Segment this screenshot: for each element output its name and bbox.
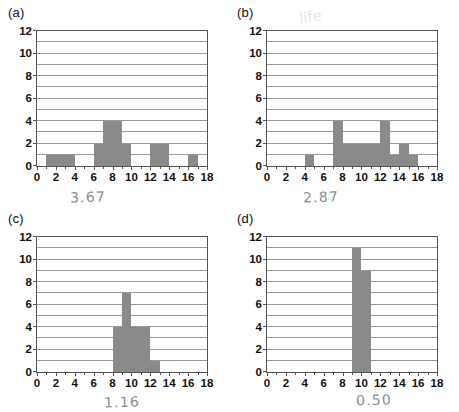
x-axis-tick-mark (103, 166, 104, 169)
x-axis-tick-label: 14 (393, 172, 406, 184)
x-axis-tick-mark (428, 166, 429, 169)
y-axis-tick-label: 4 (26, 115, 32, 127)
panel-a-label: (a) (8, 5, 25, 20)
x-axis-tick-mark (409, 372, 410, 375)
y-axis-tick-label: 10 (19, 48, 32, 60)
x-axis-tick-label: 14 (393, 378, 406, 390)
x-axis-tick-mark (113, 166, 114, 170)
x-axis-tick-label: 4 (302, 378, 308, 390)
x-axis-tick-mark (295, 166, 296, 169)
x-axis-tick-label: 0 (34, 172, 40, 184)
y-axis-tick-label: 12 (249, 25, 262, 37)
gridline (37, 41, 207, 42)
x-axis-tick-label: 4 (72, 172, 78, 184)
x-axis-tick-mark (418, 166, 419, 170)
panel-b-annotation: 2.87 (303, 188, 340, 205)
x-axis-tick-label: 10 (355, 378, 368, 390)
x-axis-tick-label: 14 (163, 172, 176, 184)
x-axis-tick-label: 18 (201, 172, 214, 184)
y-axis-tick-label: 10 (249, 254, 262, 266)
y-axis-tick-mark (33, 326, 37, 327)
gridline (267, 53, 437, 54)
x-axis-tick-mark (314, 372, 315, 375)
y-axis-tick-mark (263, 281, 267, 282)
x-axis-tick-label: 16 (182, 378, 195, 390)
panel-d-annotation: 0.50 (356, 391, 393, 408)
gridline (37, 270, 207, 271)
x-axis-tick-label: 4 (302, 172, 308, 184)
y-axis-tick-label: 8 (256, 276, 262, 288)
y-axis-tick-label: 0 (256, 160, 262, 172)
x-axis-tick-mark (122, 372, 123, 375)
x-axis-tick-mark (141, 372, 142, 375)
x-axis-tick-mark (84, 372, 85, 375)
histogram-bar (94, 144, 103, 167)
gridline (267, 41, 437, 42)
gridline (267, 86, 437, 87)
panel-d-plot-inner (267, 237, 437, 372)
y-axis-tick-mark (33, 236, 37, 237)
y-axis-tick-mark (263, 98, 267, 99)
histogram-bar (333, 121, 342, 166)
y-axis-tick-mark (263, 326, 267, 327)
y-axis-tick-label: 2 (256, 138, 262, 150)
panel-c-plot-area: 024681012024681012141618 (36, 236, 208, 373)
gridline (267, 75, 437, 76)
x-axis-tick-mark (150, 166, 151, 170)
gridline (267, 64, 437, 65)
x-axis-tick-mark (371, 166, 372, 169)
gridline (37, 75, 207, 76)
panel-a-plot-area: 024681012024681012141618 (36, 30, 208, 167)
x-axis-tick-label: 16 (412, 172, 425, 184)
x-axis-tick-mark (409, 166, 410, 169)
y-axis-tick-mark (263, 120, 267, 121)
x-axis-tick-mark (131, 166, 132, 170)
x-axis-tick-mark (169, 372, 170, 376)
x-axis-tick-mark (286, 372, 287, 376)
x-axis-tick-mark (343, 166, 344, 170)
x-axis-tick-label: 2 (283, 378, 289, 390)
histogram-bar (122, 144, 131, 167)
x-axis-tick-mark (207, 166, 208, 170)
x-axis-tick-label: 2 (53, 378, 59, 390)
x-axis-tick-label: 8 (339, 172, 345, 184)
gridline (267, 98, 437, 99)
x-axis-tick-label: 18 (201, 378, 214, 390)
x-axis-tick-mark (380, 166, 381, 170)
x-axis-tick-mark (437, 166, 438, 170)
x-axis-tick-mark (150, 372, 151, 376)
panel-a: (a) 024681012024681012141618 3.67 (0, 0, 229, 206)
histogram-bar (305, 155, 314, 166)
x-axis-tick-label: 12 (374, 172, 387, 184)
histogram-bar (122, 293, 131, 372)
gridline (37, 109, 207, 110)
y-axis-tick-mark (33, 53, 37, 54)
y-axis-tick-label: 10 (249, 48, 262, 60)
y-axis-tick-label: 6 (256, 93, 262, 105)
gridline (37, 281, 207, 282)
panel-c: (c) 024681012024681012141618 1.16 (0, 206, 229, 412)
x-axis-tick-mark (103, 372, 104, 375)
y-axis-tick-label: 0 (26, 160, 32, 172)
y-axis-tick-mark (33, 304, 37, 305)
y-axis-tick-label: 2 (256, 344, 262, 356)
x-axis-tick-mark (94, 166, 95, 170)
x-axis-tick-mark (56, 166, 57, 170)
x-axis-tick-mark (56, 372, 57, 376)
y-axis-tick-label: 4 (256, 321, 262, 333)
gridline (37, 53, 207, 54)
x-axis-tick-label: 6 (90, 378, 96, 390)
panel-d: (d) 024681012024681012141618 0.50 (229, 206, 459, 412)
gridline (267, 120, 437, 121)
gridline (37, 64, 207, 65)
x-axis-tick-label: 14 (163, 378, 176, 390)
x-axis-tick-mark (37, 372, 38, 376)
x-axis-tick-mark (198, 166, 199, 169)
x-axis-tick-label: 6 (320, 172, 326, 184)
y-axis-tick-label: 10 (19, 254, 32, 266)
y-axis-tick-label: 8 (256, 70, 262, 82)
y-axis-tick-label: 6 (256, 299, 262, 311)
y-axis-tick-mark (33, 98, 37, 99)
y-axis-tick-mark (33, 281, 37, 282)
gridline (37, 247, 207, 248)
